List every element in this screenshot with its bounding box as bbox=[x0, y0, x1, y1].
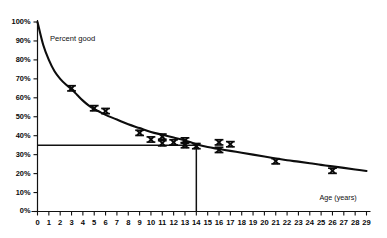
x-tick-label: 19 bbox=[249, 218, 257, 227]
x-tick-label: 11 bbox=[158, 218, 167, 227]
x-tick-label: 16 bbox=[215, 218, 223, 227]
y-tick-label: 60% bbox=[16, 93, 31, 102]
x-tick-label: 20 bbox=[260, 218, 268, 227]
x-tick-label: 22 bbox=[283, 218, 291, 227]
x-tick-label: 27 bbox=[340, 218, 348, 227]
data-point-marker bbox=[215, 140, 224, 145]
data-point-marker bbox=[147, 137, 156, 142]
data-point-marker bbox=[67, 86, 76, 91]
x-tick-label: 21 bbox=[272, 218, 281, 227]
x-tick-label: 17 bbox=[226, 218, 234, 227]
x-tick-label: 2 bbox=[58, 218, 62, 227]
data-point-marker bbox=[271, 159, 280, 164]
x-tick-label: 6 bbox=[103, 218, 107, 227]
data-point-markers bbox=[67, 86, 337, 174]
y-axis-annotation-label: Percent good bbox=[50, 34, 95, 43]
y-tick-label: 40% bbox=[16, 131, 31, 140]
x-tick-label: 10 bbox=[147, 218, 155, 227]
data-point-marker bbox=[226, 142, 235, 147]
x-tick-label: 25 bbox=[317, 218, 326, 227]
x-tick-label: 26 bbox=[328, 218, 336, 227]
x-tick-label: 3 bbox=[69, 218, 73, 227]
y-tick-label: 100% bbox=[12, 17, 31, 26]
x-tick-label: 29 bbox=[362, 218, 370, 227]
x-tick-label: 14 bbox=[192, 218, 201, 227]
data-point-marker bbox=[328, 168, 337, 173]
x-tick-label: 5 bbox=[92, 218, 97, 227]
x-tick-label: 13 bbox=[181, 218, 189, 227]
y-tick-label: 30% bbox=[16, 150, 31, 159]
x-tick-label: 24 bbox=[306, 218, 315, 227]
y-tick-label: 10% bbox=[16, 188, 31, 197]
y-tick-label: 0% bbox=[20, 206, 31, 215]
x-tick-label: 4 bbox=[81, 218, 86, 227]
data-point-marker bbox=[101, 108, 110, 113]
reference-lines-group bbox=[38, 145, 197, 211]
x-axis-annotation-label: Age (years) bbox=[320, 193, 357, 202]
percent-good-vs-age-chart: 0%10%20%30%40%50%60%70%80%90%100% 012345… bbox=[0, 0, 387, 238]
y-tick-label: 70% bbox=[16, 74, 31, 83]
x-tick-label: 23 bbox=[294, 218, 302, 227]
data-point-marker bbox=[169, 140, 178, 145]
data-point-marker bbox=[135, 130, 144, 135]
data-point-marker bbox=[158, 134, 167, 139]
x-tick-label: 8 bbox=[126, 218, 130, 227]
x-tick-label: 28 bbox=[351, 218, 359, 227]
y-tick-label: 90% bbox=[16, 36, 31, 45]
data-point-marker bbox=[158, 141, 167, 146]
chart-container: 0%10%20%30%40%50%60%70%80%90%100% 012345… bbox=[0, 0, 387, 238]
y-tick-label: 80% bbox=[16, 55, 31, 64]
y-axis-tick-labels: 0%10%20%30%40%50%60%70%80%90%100% bbox=[12, 17, 31, 216]
x-tick-label: 18 bbox=[237, 218, 245, 227]
y-tick-label: 20% bbox=[16, 169, 31, 178]
fitted-curve-line bbox=[38, 22, 367, 171]
x-tick-label: 9 bbox=[137, 218, 141, 227]
x-tick-label: 7 bbox=[115, 218, 119, 227]
x-axis-ticks bbox=[38, 212, 367, 216]
x-tick-label: 0 bbox=[35, 218, 39, 227]
y-tick-label: 50% bbox=[16, 112, 31, 121]
x-tick-label: 12 bbox=[169, 218, 177, 227]
x-axis-tick-labels: 0123456789101112131415161718192021222324… bbox=[35, 218, 370, 227]
x-tick-label: 15 bbox=[203, 218, 212, 227]
x-tick-label: 1 bbox=[47, 218, 52, 227]
